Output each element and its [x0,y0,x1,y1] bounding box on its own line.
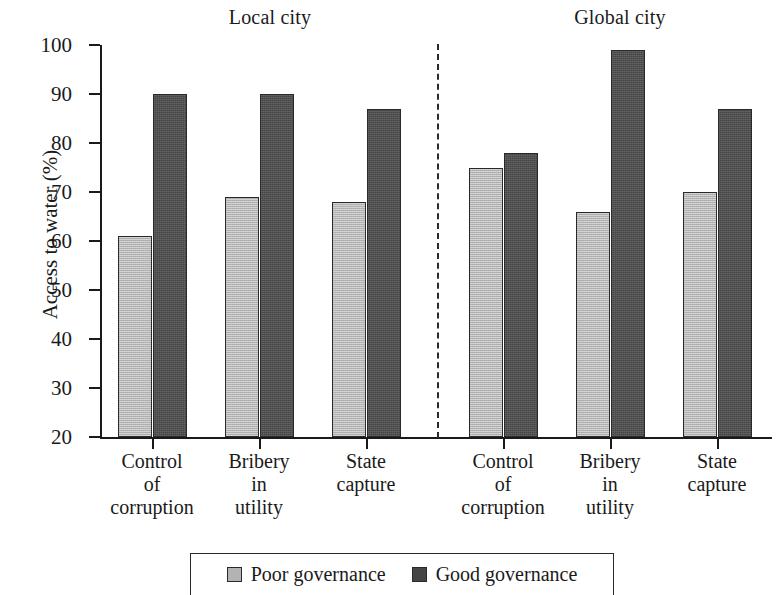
y-tick-label-60: 60 [26,231,72,252]
x-tick-1 [259,438,261,449]
legend-swatch-icon [227,567,242,582]
bar-good-1-2 [718,109,752,437]
x-axis-label-line: capture [291,473,441,496]
legend: Poor governanceGood governance [190,553,614,595]
y-tick-label-80: 80 [26,133,72,154]
legend-label: Poor governance [251,563,386,586]
panel-divider-dashed-line [437,44,439,438]
x-axis-line [100,437,772,439]
bar-poor-0-2 [332,202,366,437]
x-tick-3 [503,438,505,449]
legend-item-poor-governance: Poor governance [227,563,386,586]
y-tick-label-100: 100 [26,35,72,56]
bar-good-0-1 [260,94,294,437]
bar-good-0-2 [367,109,401,437]
y-tick-70 [89,191,100,192]
bar-chart-figure: Local city Global city Access to water (… [0,0,776,595]
bar-poor-0-1 [225,197,259,437]
y-tick-40 [89,338,100,339]
x-axis-label-line: utility [184,496,334,519]
x-tick-4 [610,438,612,449]
x-tick-5 [717,438,719,449]
y-tick-label-50: 50 [26,280,72,301]
x-tick-0 [152,438,154,449]
y-tick-80 [89,142,100,143]
y-tick-label-20: 20 [26,427,72,448]
bars-layer [100,45,772,437]
x-axis-label-line: capture [642,473,776,496]
legend-label: Good governance [436,563,578,586]
legend-item-good-governance: Good governance [412,563,578,586]
x-axis-label-5: Statecapture [642,450,776,496]
bar-poor-1-0 [469,168,503,438]
x-tick-2 [366,438,368,449]
x-axis-label-line: State [642,450,776,473]
panel-title-local-city: Local city [160,6,380,29]
bar-good-1-1 [611,50,645,437]
bar-poor-1-2 [683,192,717,437]
bar-good-0-0 [153,94,187,437]
y-tick-50 [89,289,100,290]
bar-poor-1-1 [576,212,610,437]
y-tick-label-30: 30 [26,378,72,399]
x-axis-label-2: Statecapture [291,450,441,496]
bar-good-1-0 [504,153,538,437]
legend-swatch-icon [412,567,427,582]
y-tick-label-40: 40 [26,329,72,350]
y-tick-label-90: 90 [26,84,72,105]
y-tick-30 [89,387,100,388]
y-tick-100 [89,44,100,45]
x-axis-label-line: utility [535,496,685,519]
y-tick-label-70: 70 [26,182,72,203]
y-tick-90 [89,93,100,94]
panel-title-global-city: Global city [510,6,730,29]
x-axis-label-line: State [291,450,441,473]
y-tick-60 [89,240,100,241]
bar-poor-0-0 [118,236,152,437]
y-tick-20 [89,436,100,437]
